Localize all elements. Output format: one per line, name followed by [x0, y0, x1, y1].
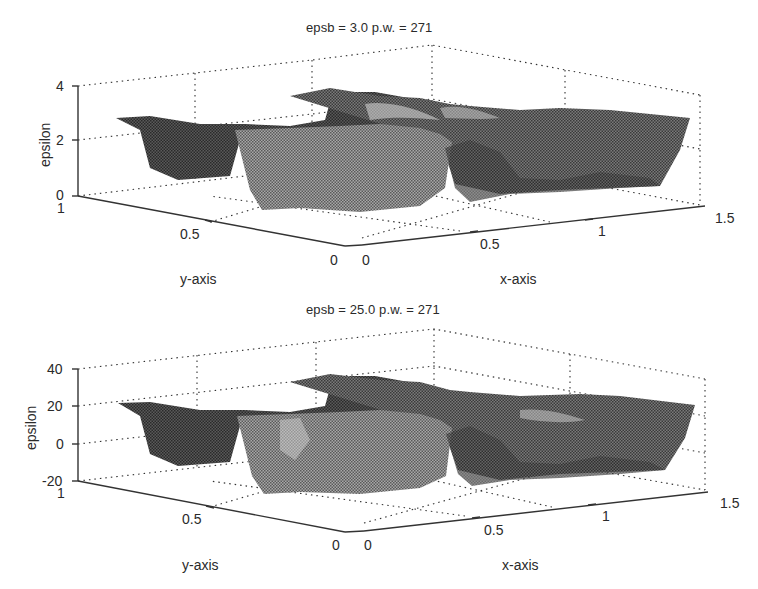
- y-tick: 1: [57, 201, 65, 215]
- plot-area-bottom: [0, 290, 758, 589]
- z-tick: 0: [56, 437, 64, 451]
- x-axis-label: x-axis: [500, 272, 537, 286]
- y-tick: 0.5: [182, 512, 201, 526]
- z-tick: 2: [56, 133, 64, 147]
- plot-title: epsb = 25.0 p.w. = 271: [306, 302, 440, 317]
- y-tick: 0.5: [180, 227, 199, 241]
- surface-plot-top: epsb = 3.0 p.w. = 271 epsilon 4 2 0 1 0.…: [0, 0, 758, 292]
- x-tick: 1: [598, 224, 606, 238]
- z-tick: 20: [47, 399, 63, 413]
- z-tick: 4: [56, 79, 64, 93]
- x-tick: 0.5: [484, 523, 503, 537]
- z-axis-label: epsilon: [38, 123, 52, 167]
- surface-mesh: [116, 88, 690, 212]
- z-tick: 40: [47, 362, 63, 376]
- y-tick: 0: [332, 538, 340, 552]
- x-tick: 1.5: [720, 496, 739, 510]
- z-axis-label: epsilon: [24, 406, 38, 450]
- x-axis-label: x-axis: [502, 558, 539, 572]
- x-tick: 0: [362, 253, 370, 267]
- plot-area-top: [0, 0, 758, 292]
- x-tick: 0.5: [480, 237, 499, 251]
- surface-plot-bottom: epsb = 25.0 p.w. = 271 epsilon 40 20 0 -…: [0, 290, 758, 589]
- y-tick: 1: [57, 486, 65, 500]
- x-tick: 1.5: [715, 211, 734, 225]
- x-tick: 0: [364, 538, 372, 552]
- x-tick: 1: [602, 509, 610, 523]
- y-axis-label: y-axis: [182, 558, 219, 572]
- y-axis-label: y-axis: [180, 272, 217, 286]
- figure: epsb = 3.0 p.w. = 271 epsilon 4 2 0 1 0.…: [0, 0, 758, 589]
- plot-title: epsb = 3.0 p.w. = 271: [306, 20, 432, 35]
- y-tick: 0: [330, 253, 338, 267]
